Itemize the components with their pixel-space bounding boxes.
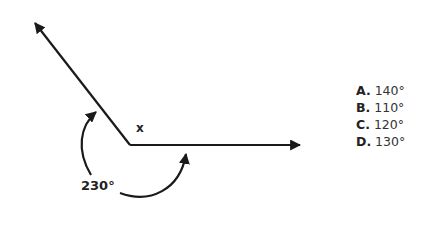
option-letter: B. — [356, 100, 370, 115]
upper-ray — [35, 23, 130, 145]
option-c[interactable]: C. 120° — [356, 116, 405, 133]
reflex-angle-label: 230° — [81, 178, 115, 193]
option-d[interactable]: D. 130° — [356, 133, 405, 150]
option-value: 120° — [374, 117, 404, 132]
left-arc-arrow — [82, 112, 96, 175]
option-value: 140° — [375, 83, 405, 98]
option-value: 130° — [375, 134, 405, 149]
option-letter: C. — [356, 117, 370, 132]
right-arc-arrow — [120, 154, 186, 197]
option-value: 110° — [374, 100, 404, 115]
option-letter: A. — [356, 83, 371, 98]
unknown-angle-label: x — [136, 121, 144, 135]
option-a[interactable]: A. 140° — [356, 82, 405, 99]
option-letter: D. — [356, 134, 371, 149]
answer-options: A. 140° B. 110° C. 120° D. 130° — [356, 82, 405, 150]
option-b[interactable]: B. 110° — [356, 99, 405, 116]
